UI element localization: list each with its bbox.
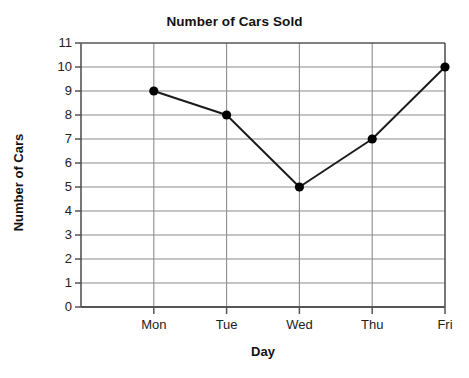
line-chart-figure: Number of Cars Sold Number of Cars 01234… <box>0 0 469 378</box>
x-axis-tick-labels: MonTueWedThuFri <box>0 0 469 378</box>
x-tick-label: Fri <box>410 318 469 331</box>
x-tick-label: Tue <box>192 318 262 331</box>
x-tick-label: Thu <box>337 318 407 331</box>
x-tick-label: Mon <box>119 318 189 331</box>
x-axis-title: Day <box>81 344 445 359</box>
x-tick-label: Wed <box>264 318 334 331</box>
